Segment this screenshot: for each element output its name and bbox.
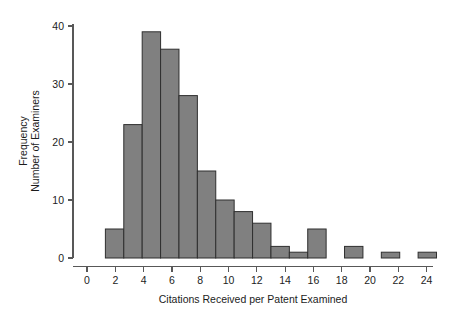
x-axis-ticks: 024681012141618202224 xyxy=(84,267,433,286)
x-tick-label: 4 xyxy=(141,274,147,286)
histogram-bar xyxy=(345,246,363,258)
y-tick-label: 10 xyxy=(52,194,64,206)
histogram-bar xyxy=(105,229,123,258)
x-tick-label: 24 xyxy=(421,274,433,286)
histogram-bar xyxy=(418,252,436,258)
histogram-bar xyxy=(381,252,399,258)
y-tick-label: 40 xyxy=(52,20,64,32)
histogram-bar xyxy=(271,246,289,258)
x-tick-label: 10 xyxy=(223,274,235,286)
histogram-bar xyxy=(253,223,271,258)
y-axis-title-line: Number of Examiners xyxy=(29,90,41,192)
histogram-bar xyxy=(308,229,326,258)
x-tick-label: 14 xyxy=(279,274,291,286)
histogram-bar xyxy=(142,32,160,258)
x-tick-label: 2 xyxy=(112,274,118,286)
y-axis-title-line: Frequency xyxy=(17,115,29,165)
histogram-bar xyxy=(216,200,234,258)
histogram-bar xyxy=(124,125,142,258)
histogram-figure: 010203040024681012141618202224Citations … xyxy=(0,0,461,317)
x-tick-label: 6 xyxy=(169,274,175,286)
y-axis-title: FrequencyNumber of Examiners xyxy=(17,90,41,192)
histogram-bar xyxy=(289,252,307,258)
histogram-bar xyxy=(197,171,215,258)
y-tick-label: 0 xyxy=(58,252,64,264)
x-axis-title: Citations Received per Patent Examined xyxy=(159,293,348,305)
x-tick-label: 22 xyxy=(392,274,404,286)
y-tick-label: 20 xyxy=(52,136,64,148)
x-tick-label: 20 xyxy=(364,274,376,286)
histogram-bar xyxy=(179,96,197,258)
x-tick-label: 0 xyxy=(84,274,90,286)
chart-canvas: 010203040024681012141618202224Citations … xyxy=(0,0,461,317)
y-axis-ticks: 010203040 xyxy=(52,20,73,264)
x-tick-label: 18 xyxy=(336,274,348,286)
x-tick-label: 12 xyxy=(251,274,263,286)
x-tick-label: 16 xyxy=(308,274,320,286)
histogram-bar xyxy=(161,49,179,258)
x-tick-label: 8 xyxy=(197,274,203,286)
bars-group xyxy=(105,32,436,258)
y-tick-label: 30 xyxy=(52,78,64,90)
histogram-bar xyxy=(234,212,252,258)
